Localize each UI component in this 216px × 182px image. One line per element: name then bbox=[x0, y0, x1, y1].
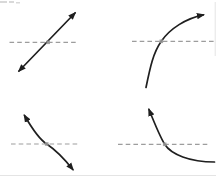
intersection-point-top-right bbox=[160, 40, 164, 44]
corner-smudge-1 bbox=[9, 1, 14, 3]
panel-bottom-right bbox=[118, 110, 215, 163]
intersection-point-bottom-right bbox=[163, 143, 167, 147]
figure-canvas bbox=[0, 0, 216, 182]
curve-panels bbox=[10, 13, 216, 170]
curve-top-right bbox=[146, 15, 203, 88]
corner-smudge-2 bbox=[16, 2, 20, 4]
intersection-point-bottom-left bbox=[45, 142, 49, 146]
intersection-point-top-left bbox=[46, 41, 50, 45]
scan-artifacts bbox=[0, 1, 216, 176]
curve-bottom-right bbox=[149, 110, 215, 163]
corner-smudge-0 bbox=[0, 1, 7, 3]
panel-top-right bbox=[132, 15, 215, 88]
panel-bottom-left bbox=[11, 116, 79, 170]
curves-figure bbox=[0, 0, 216, 182]
panel-top-left bbox=[10, 13, 78, 71]
curve-bottom-left bbox=[25, 116, 73, 170]
